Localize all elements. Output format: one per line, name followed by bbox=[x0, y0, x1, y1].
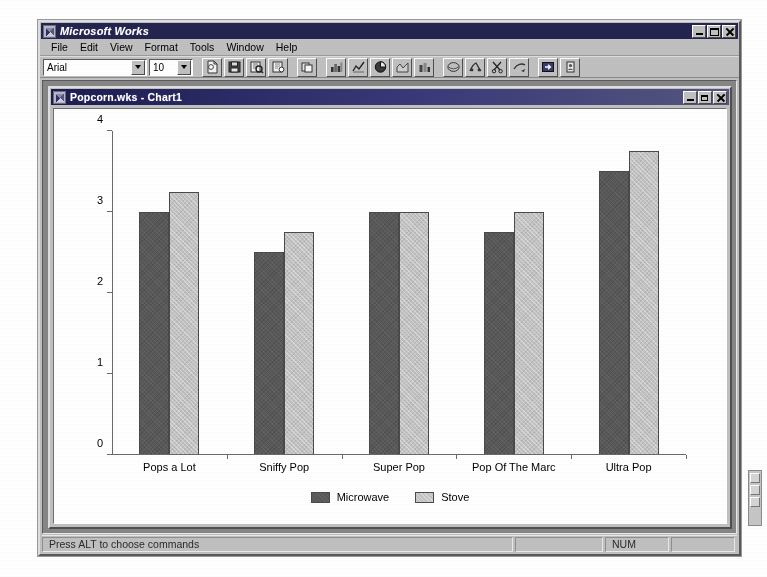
bar-group[interactable]: Ultra Pop bbox=[571, 131, 686, 454]
bar-microwave[interactable] bbox=[254, 252, 284, 454]
chevron-down-icon[interactable] bbox=[131, 60, 145, 75]
font-name-value: Arial bbox=[44, 62, 131, 73]
document-window: Popcorn.wks - Chart1 01234Pops a LotSni bbox=[48, 86, 732, 529]
bar-stove[interactable] bbox=[284, 232, 314, 454]
new-document-icon[interactable] bbox=[202, 58, 222, 77]
status-pane-trailing bbox=[671, 537, 735, 552]
minimize-icon[interactable] bbox=[692, 25, 706, 38]
status-pane-num: NUM bbox=[605, 537, 669, 552]
bar-group[interactable]: Pops a Lot bbox=[112, 131, 227, 454]
bar-stove[interactable] bbox=[629, 151, 659, 454]
bar-stove[interactable] bbox=[514, 212, 544, 454]
scanned-page-background: Microsoft Works File Edit View Format To… bbox=[0, 0, 767, 577]
cut-icon[interactable] bbox=[487, 58, 507, 77]
address-book-icon[interactable] bbox=[560, 58, 580, 77]
scrollbar-stub[interactable] bbox=[748, 470, 762, 526]
copy-icon[interactable] bbox=[297, 58, 317, 77]
x-axis-tick bbox=[571, 455, 572, 459]
close-icon[interactable] bbox=[722, 25, 736, 38]
x-axis-category-label: Pops a Lot bbox=[143, 461, 196, 473]
scroll-up-button[interactable] bbox=[750, 473, 760, 483]
legend-item[interactable]: Microwave bbox=[311, 491, 390, 503]
bar-chart-icon[interactable] bbox=[326, 58, 346, 77]
menu-item-view[interactable]: View bbox=[105, 40, 140, 55]
font-size-combobox[interactable]: 10 bbox=[149, 59, 193, 76]
x-axis-tick bbox=[686, 455, 687, 459]
print-preview-icon[interactable] bbox=[246, 58, 266, 77]
toolbar: Arial 10 bbox=[40, 56, 739, 78]
print-icon[interactable] bbox=[268, 58, 288, 77]
legend-swatch-stove bbox=[415, 492, 434, 503]
y-axis-tick-label: 3 bbox=[97, 194, 103, 206]
minimize-icon[interactable] bbox=[683, 91, 697, 104]
menu-bar: File Edit View Format Tools Window Help bbox=[40, 39, 739, 56]
chevron-down-icon[interactable] bbox=[177, 60, 191, 75]
document-title: Popcorn.wks - Chart1 bbox=[70, 91, 683, 103]
mdi-client-area: Popcorn.wks - Chart1 01234Pops a LotSni bbox=[42, 80, 737, 534]
scroll-down-button[interactable] bbox=[750, 497, 760, 507]
chart-document-icon[interactable] bbox=[53, 91, 66, 104]
y-axis-tick-label: 2 bbox=[97, 275, 103, 287]
x-axis-category-label: Pop Of The Marc bbox=[472, 461, 556, 473]
chart-legend: MicrowaveStove bbox=[54, 491, 726, 503]
bar-group[interactable]: Sniffy Pop bbox=[227, 131, 342, 454]
app-title-bar[interactable]: Microsoft Works bbox=[41, 23, 738, 39]
y-axis-tick bbox=[107, 454, 112, 455]
paste-special-icon[interactable] bbox=[509, 58, 529, 77]
maximize-icon[interactable] bbox=[707, 25, 721, 38]
plot-area: 01234Pops a LotSniffy PopSuper PopPop Of… bbox=[112, 131, 686, 455]
y-axis-tick-label: 1 bbox=[97, 356, 103, 368]
menu-item-file[interactable]: File bbox=[46, 40, 75, 55]
app-window-controls bbox=[692, 25, 736, 38]
status-message: Press ALT to choose commands bbox=[42, 537, 513, 552]
close-icon[interactable] bbox=[713, 91, 727, 104]
x-axis-tick bbox=[342, 455, 343, 459]
x-axis-category-label: Super Pop bbox=[373, 461, 425, 473]
bar-stove[interactable] bbox=[169, 192, 199, 454]
bar-stove[interactable] bbox=[399, 212, 429, 454]
menu-item-help[interactable]: Help bbox=[271, 40, 305, 55]
stacked-bar-chart-icon[interactable] bbox=[414, 58, 434, 77]
font-size-value: 10 bbox=[150, 62, 177, 73]
area-chart-icon[interactable] bbox=[392, 58, 412, 77]
works-app-icon[interactable] bbox=[43, 25, 56, 38]
insert-field-icon[interactable] bbox=[538, 58, 558, 77]
application-window: Microsoft Works File Edit View Format To… bbox=[38, 20, 741, 556]
x-axis-category-label: Sniffy Pop bbox=[259, 461, 309, 473]
font-name-combobox[interactable]: Arial bbox=[43, 59, 147, 76]
bar-group[interactable]: Super Pop bbox=[342, 131, 457, 454]
chart-canvas[interactable]: 01234Pops a LotSniffy PopSuper PopPop Of… bbox=[53, 108, 727, 524]
menu-item-window[interactable]: Window bbox=[221, 40, 270, 55]
save-icon[interactable] bbox=[224, 58, 244, 77]
bar-microwave[interactable] bbox=[139, 212, 169, 454]
x-axis bbox=[112, 454, 686, 455]
legend-label: Microwave bbox=[337, 491, 390, 503]
thesaurus-icon[interactable] bbox=[465, 58, 485, 77]
bar-chart: 01234Pops a LotSniffy PopSuper PopPop Of… bbox=[54, 109, 726, 523]
y-axis-tick-label: 4 bbox=[97, 113, 103, 125]
legend-label: Stove bbox=[441, 491, 469, 503]
pie-chart-icon[interactable] bbox=[370, 58, 390, 77]
bar-microwave[interactable] bbox=[599, 171, 629, 454]
status-pane-blank bbox=[515, 537, 603, 552]
menu-item-format[interactable]: Format bbox=[140, 40, 185, 55]
legend-item[interactable]: Stove bbox=[415, 491, 469, 503]
bar-microwave[interactable] bbox=[369, 212, 399, 454]
x-axis-tick bbox=[227, 455, 228, 459]
document-window-controls bbox=[683, 91, 727, 104]
x-axis-tick bbox=[456, 455, 457, 459]
bar-microwave[interactable] bbox=[484, 232, 514, 454]
menu-item-edit[interactable]: Edit bbox=[75, 40, 105, 55]
status-bar: Press ALT to choose commands NUM bbox=[42, 535, 737, 552]
spell-check-icon[interactable] bbox=[443, 58, 463, 77]
x-axis-category-label: Ultra Pop bbox=[606, 461, 652, 473]
app-title: Microsoft Works bbox=[60, 25, 692, 37]
legend-swatch-microwave bbox=[311, 492, 330, 503]
restore-icon[interactable] bbox=[698, 91, 712, 104]
bar-group[interactable]: Pop Of The Marc bbox=[456, 131, 571, 454]
scroll-thumb[interactable] bbox=[750, 485, 760, 495]
menu-item-tools[interactable]: Tools bbox=[185, 40, 222, 55]
document-title-bar[interactable]: Popcorn.wks - Chart1 bbox=[51, 89, 729, 105]
y-axis-tick-label: 0 bbox=[97, 437, 103, 449]
line-chart-icon[interactable] bbox=[348, 58, 368, 77]
